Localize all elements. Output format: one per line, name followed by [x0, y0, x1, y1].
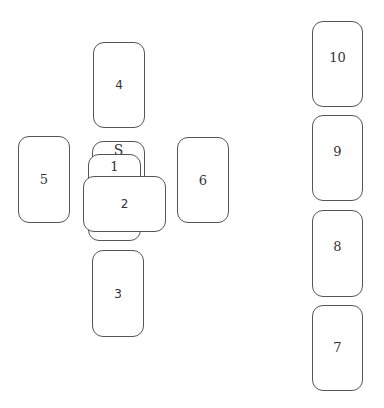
card-label: 9	[333, 145, 341, 158]
tarot-spread-diagram: 4 5 6 S 1 2 3 10 9 8 7	[0, 0, 384, 408]
card-7: 7	[312, 305, 363, 391]
card-9: 9	[312, 115, 363, 201]
card-5: 5	[18, 136, 70, 223]
card-label: 6	[199, 174, 207, 187]
card-label: 10	[329, 51, 346, 64]
card-label: 4	[115, 79, 123, 91]
card-10: 10	[312, 21, 363, 107]
card-label: 2	[121, 198, 129, 210]
card-label: 3	[114, 288, 122, 300]
card-label: 5	[40, 173, 48, 186]
card-4: 4	[93, 42, 145, 128]
card-6: 6	[177, 137, 229, 223]
card-label: 1	[110, 160, 118, 173]
card-label: 8	[333, 240, 341, 253]
card-2: 2	[83, 176, 166, 232]
card-8: 8	[312, 210, 363, 297]
card-label: 7	[333, 341, 341, 354]
card-3: 3	[92, 250, 144, 337]
